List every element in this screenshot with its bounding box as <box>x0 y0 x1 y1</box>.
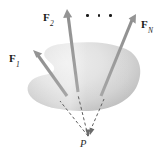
ellipsis-dot <box>86 14 89 17</box>
force-label-f1-symbol: F <box>9 52 16 64</box>
rigid-body-blob <box>28 42 141 111</box>
point-label-p: P <box>80 139 86 150</box>
force-label-f1: F1 <box>9 53 19 67</box>
force-label-fn-symbol: F <box>141 18 148 30</box>
force-label-fn-subscript: N <box>148 26 153 35</box>
force-label-f2-subscript: 2 <box>50 19 54 28</box>
ellipsis-dot <box>98 14 101 17</box>
diagram-canvas <box>0 0 163 158</box>
force-label-f2: F2 <box>43 12 53 26</box>
force-diagram-figure: F1 F2 FN P <box>0 0 163 158</box>
force-label-fn: FN <box>141 19 153 33</box>
force-label-f1-subscript: 1 <box>16 60 20 69</box>
force-series-ellipsis <box>86 14 112 17</box>
ellipsis-dot <box>109 14 112 17</box>
force-label-f2-symbol: F <box>43 11 50 23</box>
